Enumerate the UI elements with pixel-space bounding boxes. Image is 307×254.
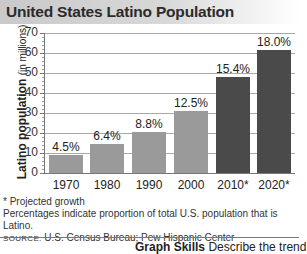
bar-data-label: 18.0% [249,35,299,49]
y-minor-tick [42,81,44,82]
y-minor-tick [42,109,44,110]
y-tick-label: 70 [14,25,38,39]
y-minor-tick [42,129,44,130]
y-minor-tick [42,125,44,126]
bar-1990 [132,132,166,173]
chart-title-bar: United States Latino Population [0,0,299,24]
y-tick-label: 40 [14,85,38,99]
bar-2000 [174,111,208,173]
y-minor-tick [42,105,44,106]
y-minor-tick [42,157,44,158]
y-minor-tick [42,37,44,38]
y-minor-tick [42,77,44,78]
y-minor-tick [42,45,44,46]
y-minor-tick [42,41,44,42]
projected-note: * Projected growth [3,196,299,208]
graph-skills-text: Describe the trend [208,240,306,254]
y-minor-tick [42,89,44,90]
y-minor-tick [42,69,44,70]
bar-2020-projected [257,50,291,173]
y-minor-tick [42,117,44,118]
bar-data-label: 8.8% [124,117,174,131]
bar-data-label: 12.5% [166,96,216,110]
bar-1970 [49,155,83,173]
gridline [45,33,295,34]
graph-skills-label: Graph Skills [135,240,205,254]
bar-2010-projected [216,77,250,173]
y-minor-tick [42,49,44,50]
y-minor-tick [42,169,44,170]
bar-data-label: 6.4% [82,129,132,143]
percentages-note: Percentages indicate proportion of total… [3,208,299,232]
divider [0,237,299,238]
y-tick [40,133,44,134]
y-minor-tick [42,97,44,98]
graph-skills: Graph Skills Describe the trend [135,240,306,254]
y-tick-label: 0 [14,165,38,179]
source-prefix: SOURCE: [3,234,42,243]
x-tick-label: 2020* [249,178,299,192]
y-tick-label: 50 [14,65,38,79]
x-axis [44,173,295,174]
y-minor-tick [42,121,44,122]
y-minor-tick [42,61,44,62]
y-tick [40,73,44,74]
bar-data-label: 15.4% [208,62,258,76]
y-tick [40,93,44,94]
y-tick [40,173,44,174]
y-tick [40,33,44,34]
y-minor-tick [42,65,44,66]
y-minor-tick [42,57,44,58]
y-minor-tick [42,137,44,138]
y-tick-label: 20 [14,125,38,139]
y-tick [40,113,44,114]
chart-title: United States Latino Population [6,3,234,21]
y-tick-label: 10 [14,145,38,159]
y-tick [40,53,44,54]
y-tick-label: 60 [14,45,38,59]
y-minor-tick [42,101,44,102]
y-minor-tick [42,85,44,86]
y-minor-tick [42,161,44,162]
bar-1980 [90,144,124,173]
y-minor-tick [42,165,44,166]
y-tick-label: 30 [14,105,38,119]
